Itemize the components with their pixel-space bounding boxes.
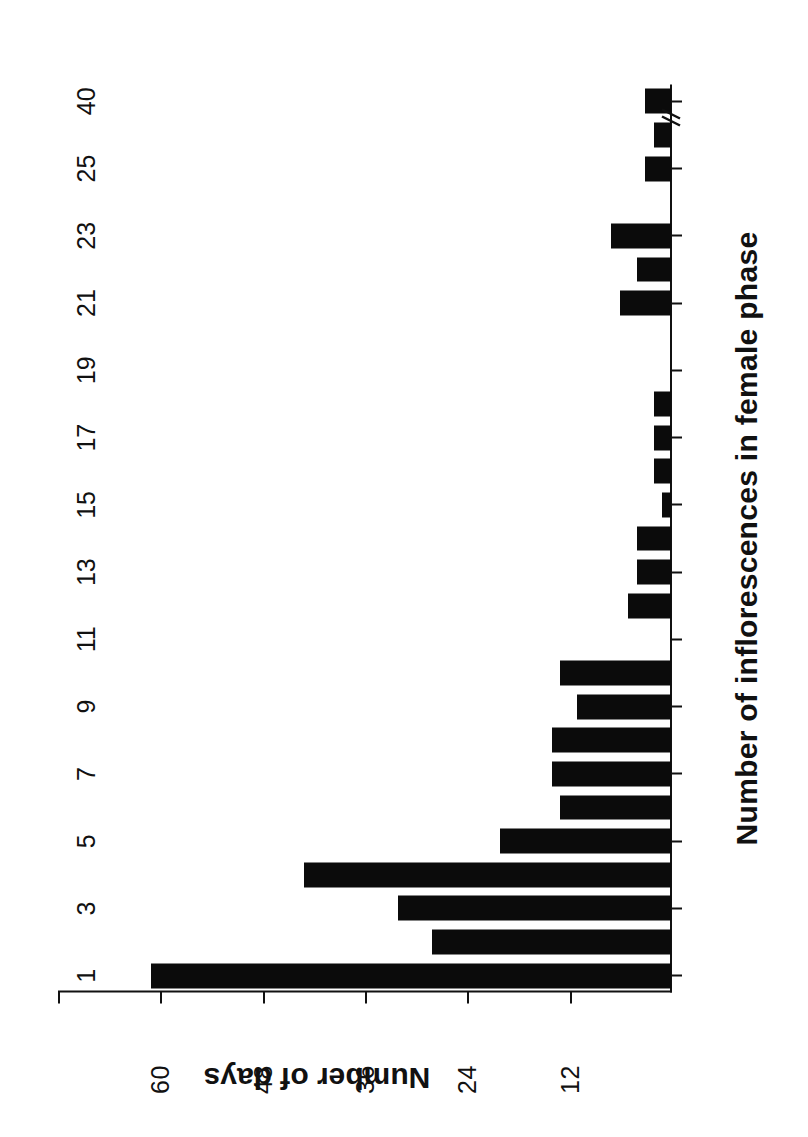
- bar-3: [398, 896, 671, 921]
- value-tick-24: [467, 991, 469, 1003]
- bar-14: [637, 526, 671, 551]
- category-tick-15: [672, 503, 682, 505]
- category-tick-label-13: 13: [72, 558, 101, 586]
- category-tick-label-23: 23: [72, 221, 101, 249]
- value-tick-60: [160, 991, 162, 1003]
- category-tick-9: [672, 705, 682, 707]
- value-tick-12: [570, 991, 572, 1003]
- category-tick-13: [672, 571, 682, 573]
- category-tick-label-15: 15: [72, 490, 101, 518]
- bar-23: [611, 223, 671, 248]
- category-tick-7: [672, 772, 682, 774]
- category-tick-label-21: 21: [72, 289, 101, 317]
- category-tick-label-17: 17: [72, 423, 101, 451]
- category-tick-17: [672, 436, 682, 438]
- value-tick-label-12: 12: [555, 1065, 584, 1094]
- rotated-figure-stage: 1224364860 13579111315171921232540 Numbe…: [0, 0, 808, 1137]
- bar-1: [151, 963, 671, 988]
- category-tick-label-40: 40: [72, 87, 101, 115]
- bar-chart-figure: 1224364860 13579111315171921232540 Numbe…: [0, 0, 808, 1137]
- category-tick-label-3: 3: [72, 901, 101, 915]
- category-tick-1: [672, 974, 682, 976]
- category-tick-label-25: 25: [72, 154, 101, 182]
- value-tick-48: [263, 991, 265, 1003]
- category-tick-label-1: 1: [72, 968, 101, 982]
- bar-8: [552, 727, 671, 752]
- category-tick-label-19: 19: [72, 356, 101, 384]
- bar-4: [304, 862, 671, 887]
- bar-22: [637, 257, 671, 282]
- bar-15: [662, 492, 671, 517]
- category-tick-label-7: 7: [72, 766, 101, 780]
- bar-10: [560, 660, 671, 685]
- plot-area: 1224364860 13579111315171921232540: [58, 84, 672, 992]
- bar-2: [432, 929, 671, 954]
- bar-12: [628, 593, 671, 618]
- category-tick-5: [672, 840, 682, 842]
- category-tick-label-9: 9: [72, 699, 101, 713]
- category-tick-3: [672, 907, 682, 909]
- category-tick-19: [672, 369, 682, 371]
- category-tick-label-11: 11: [72, 626, 101, 652]
- bar-16: [654, 458, 671, 483]
- value-tick-36: [365, 991, 367, 1003]
- bar-17: [654, 425, 671, 450]
- category-tick-25: [672, 167, 682, 169]
- bar-21: [620, 290, 671, 315]
- category-tick-label-5: 5: [72, 834, 101, 848]
- y-axis-title: Number of days: [107, 1060, 527, 1094]
- x-axis-title: Number of inflorescences in female phase: [730, 84, 764, 992]
- category-tick-11: [672, 638, 682, 640]
- axis-break-icon: [658, 105, 684, 131]
- bar-5: [500, 828, 671, 853]
- bar-18: [654, 391, 671, 416]
- bar-9: [577, 694, 671, 719]
- value-axis-top-cap: [58, 991, 60, 1003]
- bar-25: [645, 156, 671, 181]
- category-tick-40: [672, 100, 682, 102]
- bar-13: [637, 559, 671, 584]
- bar-series: [58, 84, 672, 992]
- bar-6: [560, 795, 671, 820]
- bar-7: [552, 761, 671, 786]
- category-tick-21: [672, 302, 682, 304]
- category-tick-23: [672, 234, 682, 236]
